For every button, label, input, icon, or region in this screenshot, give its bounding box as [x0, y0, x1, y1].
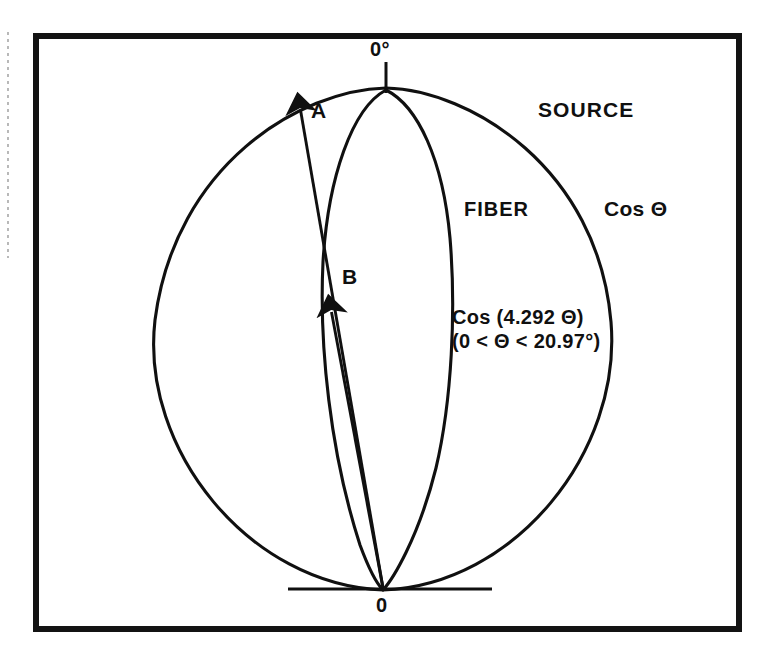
cos-theta-label: Cos Θ — [604, 197, 667, 221]
fiber-formula-label: Cos (4.292 Θ) (0 < Θ < 20.97°) — [452, 306, 600, 353]
figure-canvas — [0, 0, 760, 655]
ray-a-label: A — [311, 99, 326, 123]
figure-border — [36, 36, 739, 629]
ray-b-arrow — [332, 312, 384, 588]
fiber-lobe-curve — [322, 90, 452, 590]
fiber-formula-expression: Cos (4.292 Θ) — [452, 306, 584, 328]
source-label: SOURCE — [538, 98, 634, 122]
fiber-label: FIBER — [464, 198, 529, 220]
figure-root: 0° SOURCE FIBER Cos Θ Cos (4.292 Θ) (0 <… — [0, 0, 760, 655]
fiber-formula-range: (0 < Θ < 20.97°) — [452, 330, 600, 352]
ray-b-label: B — [342, 265, 357, 289]
zero-degree-label: 0° — [370, 38, 390, 60]
origin-label: 0 — [376, 594, 387, 616]
